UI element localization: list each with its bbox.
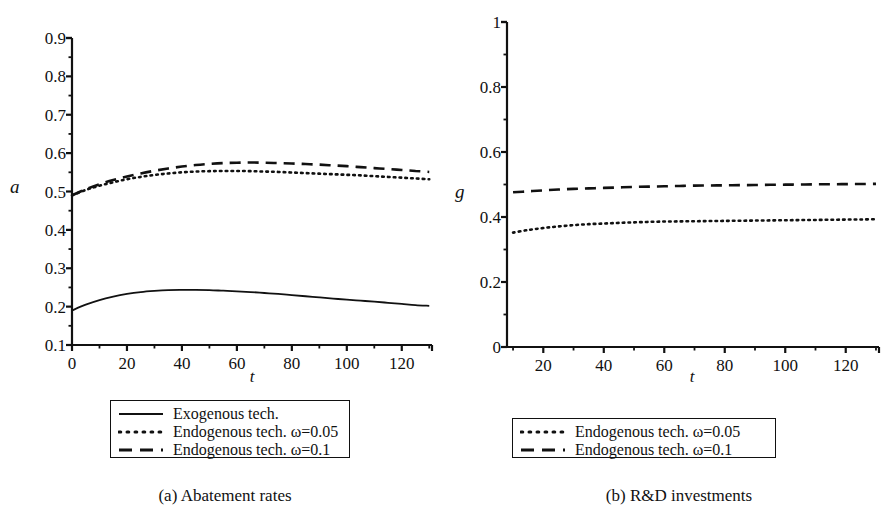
- series-line-dotted: [513, 219, 876, 232]
- legend-a: Exogenous tech.Endogenous tech. ω=0.05En…: [110, 400, 350, 458]
- legend-item: Endogenous tech. ω=0.1: [520, 441, 767, 459]
- y-tick-label: 0: [493, 339, 502, 356]
- legend-item-label: Exogenous tech.: [173, 406, 279, 422]
- x-tick-label: 60: [228, 355, 245, 372]
- y-tick-label: 0.6: [480, 144, 501, 161]
- legend-item-label: Endogenous tech. ω=0.1: [575, 442, 732, 458]
- chart-panel-a: a t Exogenous tech.Endogenous tech. ω=0.…: [0, 0, 447, 526]
- x-tick-label: 40: [595, 357, 612, 374]
- y-tick-label: 0.1: [45, 337, 66, 354]
- chart-panel-b: g t Endogenous tech. ω=0.05Endogenous te…: [447, 0, 894, 526]
- plot-area-b: [447, 0, 894, 400]
- x-tick-label: 120: [389, 355, 415, 372]
- y-tick-label: 0.3: [45, 260, 66, 277]
- series-line-dashed: [513, 184, 876, 192]
- legend-item-label: Endogenous tech. ω=0.05: [173, 424, 338, 440]
- x-tick-label: 100: [772, 357, 798, 374]
- series-line-solid: [72, 290, 429, 311]
- x-tick-label: 80: [283, 355, 300, 372]
- y-tick-label: 0.5: [45, 183, 66, 200]
- legend-swatch-dotted: [118, 425, 164, 439]
- legend-item: Endogenous tech. ω=0.05: [520, 423, 767, 441]
- legend-item-label: Endogenous tech. ω=0.05: [575, 424, 740, 440]
- legend-item: Endogenous tech. ω=0.1: [118, 441, 341, 459]
- caption-a: (a) Abatement rates: [158, 487, 291, 504]
- legend-item-label: Endogenous tech. ω=0.1: [173, 442, 330, 458]
- x-tick-label: 60: [656, 357, 673, 374]
- y-tick-label: 0.8: [480, 79, 501, 96]
- y-tick-label: 1: [493, 14, 502, 31]
- series-line-dotted: [72, 171, 429, 195]
- caption-b: (b) R&D investments: [606, 487, 752, 504]
- y-tick-label: 0.7: [45, 106, 66, 123]
- legend-swatch-dashed: [118, 443, 164, 457]
- y-tick-label: 0.6: [45, 145, 66, 162]
- figure-root: a t Exogenous tech.Endogenous tech. ω=0.…: [0, 0, 894, 526]
- y-tick-label: 0.2: [480, 274, 501, 291]
- plot-area-a: [0, 0, 447, 400]
- legend-swatch-dotted: [520, 425, 566, 439]
- x-tick-label: 80: [716, 357, 733, 374]
- y-tick-label: 0.2: [45, 298, 66, 315]
- legend-item: Exogenous tech.: [118, 405, 341, 423]
- legend-b: Endogenous tech. ω=0.05Endogenous tech. …: [512, 418, 776, 458]
- x-tick-label: 120: [833, 357, 859, 374]
- y-tick-label: 0.4: [45, 221, 66, 238]
- x-tick-label: 20: [118, 355, 135, 372]
- x-axis-label-b: t: [690, 368, 695, 385]
- legend-swatch-solid: [118, 407, 164, 421]
- x-tick-label: 20: [535, 357, 552, 374]
- y-tick-label: 0.4: [480, 209, 501, 226]
- y-tick-label: 0.8: [45, 68, 66, 85]
- x-tick-label: 100: [334, 355, 360, 372]
- series-line-dashed: [72, 163, 429, 196]
- x-tick-label: 40: [173, 355, 190, 372]
- y-tick-label: 0.9: [45, 30, 66, 47]
- legend-item: Endogenous tech. ω=0.05: [118, 423, 341, 441]
- legend-swatch-dashed: [520, 443, 566, 457]
- x-tick-label: 0: [68, 355, 77, 372]
- x-axis-label-a: t: [250, 368, 255, 385]
